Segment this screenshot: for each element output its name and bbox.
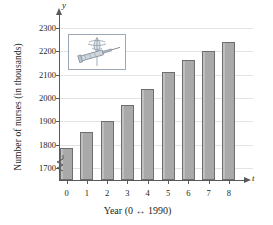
plot-area: y t 012345678 bbox=[59, 14, 253, 181]
x-tick-label: 2 bbox=[99, 188, 115, 198]
x-tick-mark bbox=[127, 180, 128, 184]
y-tick-mark bbox=[56, 145, 60, 146]
x-tick-label: 4 bbox=[140, 188, 156, 198]
x-tick-label: 3 bbox=[119, 188, 135, 198]
x-axis-title: Year (0 ↔ 1990) bbox=[30, 205, 245, 216]
bar bbox=[222, 42, 235, 180]
x-tick-label: 1 bbox=[79, 188, 95, 198]
y-tick-mark bbox=[56, 28, 60, 29]
bar bbox=[162, 72, 175, 180]
x-tick-mark bbox=[168, 180, 169, 184]
x-tick-label: 7 bbox=[201, 188, 217, 198]
x-axis-arrow-icon bbox=[244, 177, 251, 183]
y-tick-label: 1900 bbox=[39, 117, 56, 126]
x-tick-mark bbox=[148, 180, 149, 184]
x-tick-mark bbox=[209, 180, 210, 184]
x-tick-label: 0 bbox=[59, 188, 75, 198]
x-tick-mark bbox=[229, 180, 230, 184]
x-tick-mark bbox=[107, 180, 108, 184]
y-axis-symbol: y bbox=[62, 0, 66, 10]
x-tick-mark bbox=[67, 180, 68, 184]
y-tick-label-group: 1700180019002000210022002300 bbox=[18, 14, 56, 181]
nurses-bar-chart: Number of nurses (in thousands) Year (0 … bbox=[0, 0, 273, 225]
x-tick-label: 8 bbox=[221, 188, 237, 198]
x-tick-mark bbox=[188, 180, 189, 184]
bar bbox=[202, 51, 215, 180]
y-tick-label: 2100 bbox=[39, 71, 56, 80]
bar bbox=[121, 105, 134, 180]
y-tick-mark bbox=[56, 75, 60, 76]
x-tick-label: 6 bbox=[180, 188, 196, 198]
y-tick-label: 2200 bbox=[39, 47, 56, 56]
y-tick-mark bbox=[56, 121, 60, 122]
bar bbox=[101, 121, 114, 181]
x-tick-label: 5 bbox=[160, 188, 176, 198]
x-axis-symbol: t bbox=[252, 173, 255, 183]
bar bbox=[141, 89, 154, 180]
y-tick-mark bbox=[56, 98, 60, 99]
y-tick-label: 2000 bbox=[39, 94, 56, 103]
bar bbox=[182, 60, 195, 180]
caduceus-syringe-inset-icon bbox=[68, 34, 126, 70]
bar bbox=[80, 132, 93, 180]
y-tick-label: 2300 bbox=[39, 24, 56, 33]
gridline bbox=[60, 28, 253, 29]
x-tick-mark bbox=[87, 180, 88, 184]
axis-break-icon bbox=[53, 154, 67, 172]
y-tick-label: 1800 bbox=[39, 141, 56, 150]
y-tick-mark bbox=[56, 51, 60, 52]
